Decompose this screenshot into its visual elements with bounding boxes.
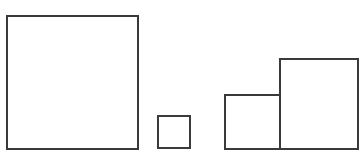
- large-square: [6, 15, 139, 150]
- right-square: [279, 58, 359, 150]
- medium-square: [224, 94, 281, 150]
- small-square: [157, 115, 191, 149]
